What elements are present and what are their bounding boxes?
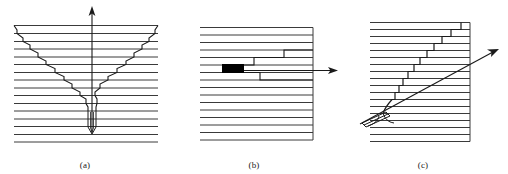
figure-root: (a) [0, 0, 508, 174]
crack-front-left-a [14, 26, 88, 112]
crack-lower-b [222, 73, 313, 81]
diagonal-arrow-c [360, 49, 499, 124]
layer-lines-c [370, 23, 470, 142]
panel-a-graphic [0, 0, 170, 174]
layer-lines-a [14, 26, 158, 143]
crack-front-right-a [95, 26, 158, 112]
panel-b-graphic [170, 0, 338, 174]
panel-c: (c) [338, 0, 508, 174]
dark-inclusion-b [222, 64, 244, 73]
panel-c-caption: (c) [338, 160, 508, 170]
panel-c-graphic [338, 0, 508, 174]
layer-lines-b [200, 28, 313, 141]
panel-a-caption: (a) [0, 160, 170, 170]
panel-a: (a) [0, 0, 170, 174]
panel-b-caption: (b) [170, 160, 338, 170]
panel-b: (b) [170, 0, 338, 174]
